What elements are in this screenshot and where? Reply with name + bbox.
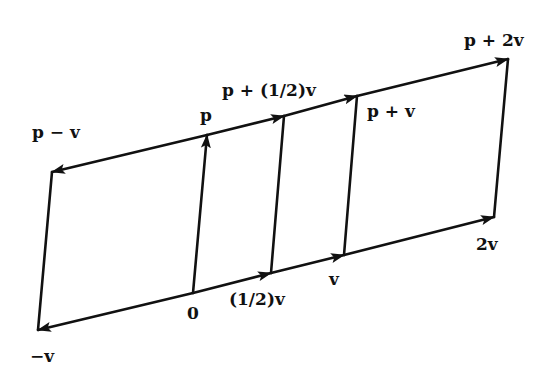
edge-half-v-to-p-plus-half-v [271,116,284,273]
diagram-canvas [0,0,552,373]
edge-2v-to-p-plus-2v [494,59,508,217]
arrow-0-to-p [193,135,207,293]
label-origin: 0 [187,305,199,322]
arrow-to-p-plus-2v [357,59,508,96]
label-p: p [200,107,212,124]
label-text: p + v [367,101,415,121]
arrow-to-p-plus-half-v [207,116,284,135]
label-p-minus-v: p − v [32,124,80,141]
label-p-plus-2v: p + 2v [464,32,524,49]
arrow-to-2v [344,217,494,255]
label-text: p + (1/2)v [222,80,316,100]
edge-neg-v-to-p-minus-v [38,172,52,330]
label-text: p [200,105,212,125]
label-neg-v: −v [30,348,54,365]
label-text: 2v [476,234,498,254]
label-v: v [329,271,339,288]
label-p-plus-half-v: p + (1/2)v [222,82,316,99]
label-text: 0 [187,303,199,323]
label-text: (1/2)v [229,289,285,309]
edge-v-to-p-plus-v [344,96,357,255]
label-p-plus-v: p + v [367,103,415,120]
label-2v: 2v [476,236,498,253]
label-half-v: (1/2)v [229,291,285,308]
label-text: v [329,269,339,289]
label-text: p − v [32,122,80,142]
arrow-to-neg-v [38,293,193,330]
vector-parallelogram-diagram: p − v p p + (1/2)v p + v p + 2v 0 (1/2)v… [0,0,552,373]
label-text: p + 2v [464,30,524,50]
label-text: −v [30,346,54,366]
